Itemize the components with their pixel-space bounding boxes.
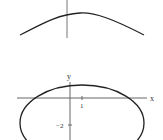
- y-tick-label: −2: [56, 122, 64, 130]
- x-tick-label: 1: [80, 102, 84, 110]
- x-axis-label: x: [150, 94, 154, 103]
- ellipse-curve: [20, 85, 144, 140]
- arch-curve: [20, 13, 144, 35]
- y-axis-label: y: [67, 72, 71, 81]
- figure-canvas: x y 1 −2: [0, 0, 163, 140]
- bottom-figure: x y 1 −2: [17, 72, 154, 140]
- top-figure: [20, 0, 144, 38]
